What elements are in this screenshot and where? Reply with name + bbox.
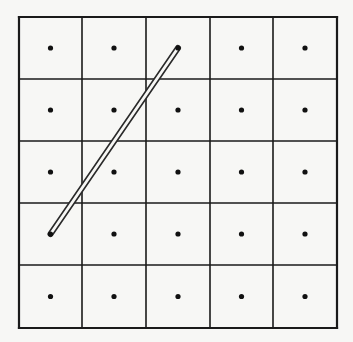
cell-dot — [302, 231, 307, 236]
cell-dot — [48, 294, 53, 299]
cell-dot — [302, 45, 307, 50]
cell-dot — [239, 107, 244, 112]
cell-dot — [48, 231, 53, 236]
cell-dot — [239, 294, 244, 299]
cell-dot — [302, 107, 307, 112]
cell-dot — [239, 169, 244, 174]
cell-dot — [302, 169, 307, 174]
cell-dot — [48, 169, 53, 174]
cell-dot — [111, 231, 116, 236]
cell-dot — [175, 231, 180, 236]
cell-dot — [175, 294, 180, 299]
cell-dot — [175, 45, 180, 50]
cell-dot — [111, 45, 116, 50]
cell-dot — [111, 169, 116, 174]
cell-dot — [239, 231, 244, 236]
cell-dot — [175, 107, 180, 112]
cell-dot — [302, 294, 307, 299]
cell-dot — [239, 45, 244, 50]
cell-dot — [175, 169, 180, 174]
cell-dot — [48, 45, 53, 50]
cell-dots — [48, 45, 308, 299]
cell-dot — [111, 107, 116, 112]
cell-dot — [48, 107, 53, 112]
grid-diagram — [0, 0, 353, 342]
cell-dot — [111, 294, 116, 299]
